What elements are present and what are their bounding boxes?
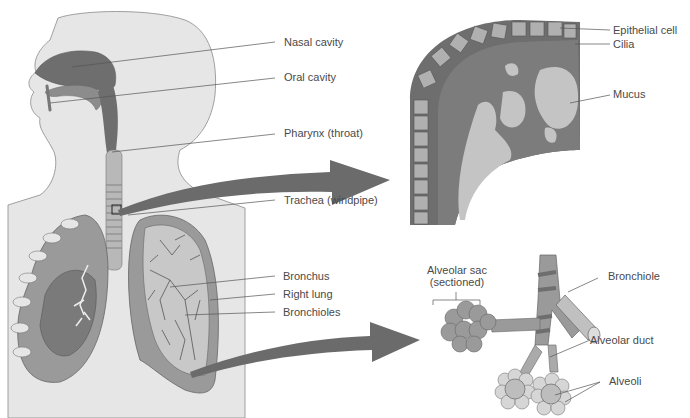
label-epithelial-cell: Epithelial cell [613, 24, 677, 36]
diagram-artwork [0, 0, 690, 418]
label-mucus: Mucus [613, 88, 645, 100]
label-alveoli: Alveoli [609, 375, 641, 387]
label-cilia: Cilia [613, 38, 634, 50]
label-alveolar-duct: Alveolar duct [590, 334, 654, 346]
respiratory-diagram: Nasal cavity Oral cavity Pharynx (throat… [0, 0, 690, 418]
epithelium-inset [410, 20, 580, 225]
label-bronchioles: Bronchioles [283, 306, 340, 318]
label-alveolar-sac: Alveolar sac (sectioned) [424, 264, 490, 288]
label-trachea: Trachea (windpipe) [284, 194, 378, 206]
label-bronchiole: Bronchiole [608, 270, 660, 282]
label-right-lung: Right lung [283, 288, 333, 300]
label-oral-cavity: Oral cavity [284, 71, 336, 83]
label-nasal-cavity: Nasal cavity [284, 36, 343, 48]
label-pharynx: Pharynx (throat) [284, 127, 363, 139]
label-alveolar-sac-line2: (sectioned) [424, 276, 490, 288]
label-alveolar-sac-line1: Alveolar sac [424, 264, 490, 276]
label-bronchus: Bronchus [283, 270, 329, 282]
